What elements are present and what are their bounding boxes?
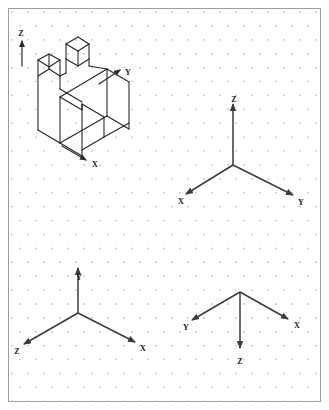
sheet-border-frame [8, 8, 321, 402]
isometric-worksheet-sheet: Z Y X Z X Y Y [0, 0, 329, 410]
